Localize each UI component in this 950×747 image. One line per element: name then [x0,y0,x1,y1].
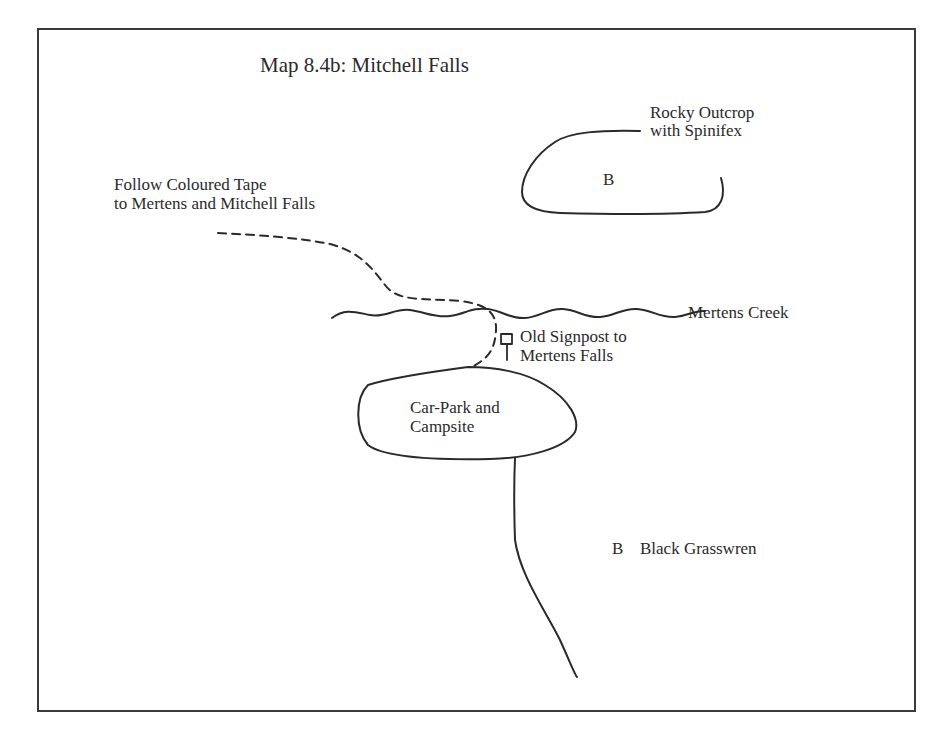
rocky-outcrop-label-line1: Rocky Outcrop [650,103,754,122]
rocky-outcrop-outline [522,131,723,214]
legend-marker: B [612,539,623,558]
creek-label: Mertens Creek [688,303,789,322]
carpark-label-line2: Campsite [410,417,474,436]
signpost-icon [501,334,512,344]
signpost-label-line2: Mertens Falls [520,346,613,365]
rocky-outcrop-label-line2: with Spinifex [650,121,742,140]
legend-text: Black Grasswren [640,539,757,558]
road-line [514,458,577,677]
signpost-label-line1: Old Signpost to [520,327,627,346]
map-drawing [0,0,950,747]
mertens-creek-line [332,309,705,318]
outcrop-grasswren-marker: B [603,170,614,189]
follow-tape-label-line1: Follow Coloured Tape [114,175,266,194]
carpark-label-line1: Car-Park and [410,398,500,417]
dashed-trail [218,233,496,368]
map-title: Map 8.4b: Mitchell Falls [260,56,469,75]
follow-tape-label-line2: to Mertens and Mitchell Falls [114,194,315,213]
